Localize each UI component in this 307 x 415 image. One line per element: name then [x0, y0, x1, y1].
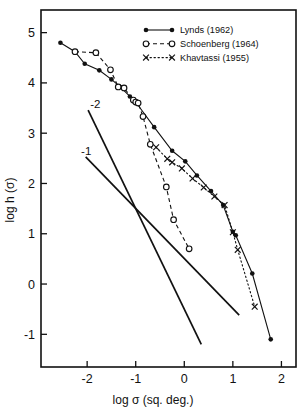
open-circle-marker — [164, 184, 170, 190]
slope-reference-label: -1 — [81, 145, 91, 157]
y-tick-label: 4 — [28, 76, 35, 90]
open-circle-marker — [121, 85, 127, 91]
plot-background — [0, 0, 307, 415]
open-circle-marker — [108, 67, 114, 73]
y-tick-label: 1 — [28, 227, 35, 241]
legend-entry-label: Khavtassi (1955) — [180, 53, 249, 63]
open-circle-marker — [72, 49, 78, 55]
filled-circle-marker — [170, 28, 175, 33]
filled-circle-marker — [183, 159, 188, 164]
filled-circle-marker — [97, 68, 102, 73]
y-tick-label: 5 — [28, 26, 35, 40]
filled-circle-marker — [109, 77, 114, 82]
legend-entry-label: Lynds (1962) — [180, 25, 233, 35]
open-circle-marker — [143, 41, 149, 47]
legend-entry-label: Schoenberg (1964) — [180, 39, 259, 49]
open-circle-marker — [171, 217, 177, 223]
open-circle-marker — [186, 246, 192, 252]
open-circle-marker — [135, 100, 141, 106]
open-circle-marker — [140, 114, 146, 120]
filled-circle-marker — [209, 189, 214, 194]
figure-container: -2-1012 -1012345 -2-1 Lynds (1962)Schoen… — [0, 0, 307, 415]
open-circle-marker — [115, 84, 121, 90]
y-tick-label: 2 — [28, 177, 35, 191]
y-axis-title: log h (σ) — [3, 178, 17, 223]
x-tick-label: 0 — [181, 372, 188, 386]
x-tick-label: -1 — [130, 372, 141, 386]
filled-circle-marker — [268, 337, 273, 342]
y-tick-label: 0 — [28, 278, 35, 292]
slope-reference-label: -2 — [90, 98, 100, 110]
filled-circle-marker — [82, 62, 87, 67]
filled-circle-marker — [58, 40, 63, 45]
y-tick-label: -1 — [24, 328, 35, 342]
log-h-sigma-scatter-plot: -2-1012 -1012345 -2-1 Lynds (1962)Schoen… — [0, 0, 307, 415]
filled-circle-marker — [250, 271, 255, 276]
open-circle-marker — [147, 141, 153, 147]
open-circle-marker — [169, 41, 175, 47]
y-tick-label: 3 — [28, 127, 35, 141]
x-tick-label: 1 — [229, 372, 236, 386]
filled-circle-marker — [170, 148, 175, 153]
x-tick-label: -2 — [82, 372, 93, 386]
filled-circle-marker — [144, 28, 149, 33]
filled-circle-marker — [152, 125, 157, 130]
x-tick-label: 2 — [278, 372, 285, 386]
open-circle-marker — [93, 50, 99, 56]
x-axis-title: log σ (sq. deg.) — [113, 393, 194, 407]
